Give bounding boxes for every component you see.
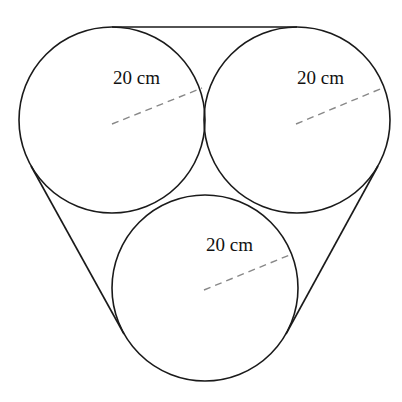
radius-line-top-left — [112, 88, 202, 124]
circle-top-left — [19, 27, 205, 213]
circle-bottom — [112, 195, 298, 381]
radius-line-bottom — [204, 254, 292, 290]
radius-label-top-right: 20 cm — [297, 67, 344, 88]
three-circles-diagram: 20 cm 20 cm 20 cm — [0, 0, 402, 402]
circle-top-right — [204, 27, 390, 213]
radius-line-top-right — [296, 87, 385, 124]
radius-label-top-left: 20 cm — [113, 67, 160, 88]
radius-label-bottom: 20 cm — [206, 234, 253, 255]
right-tangent-line — [286, 166, 378, 334]
left-tangent-line — [31, 166, 124, 334]
